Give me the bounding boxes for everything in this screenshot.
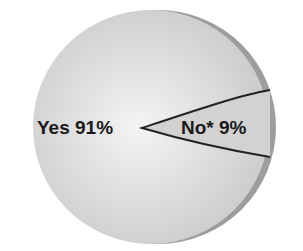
no-label: No* 9% <box>181 117 246 139</box>
yes-label: Yes 91% <box>37 117 113 139</box>
